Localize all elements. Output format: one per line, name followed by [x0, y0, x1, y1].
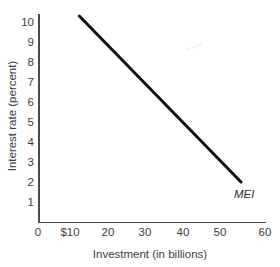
- y-tick-label: 1: [12, 197, 34, 209]
- x-tick-label: 40: [163, 227, 203, 239]
- scan-artifact: [196, 42, 202, 47]
- x-tick-label: 20: [88, 227, 128, 239]
- x-tick-label: 60: [245, 227, 280, 239]
- investment-demand-chart: 10 9 8 7 6 5 4 3 2 1 0 $10 20 30 40 50 6…: [0, 0, 280, 267]
- x-tick-label: 50: [200, 227, 240, 239]
- y-axis-title: Interest rate (percent): [6, 41, 18, 191]
- mei-curve-label: MEI: [234, 188, 254, 200]
- y-axis-line: [38, 14, 40, 223]
- x-axis-line: [38, 222, 266, 224]
- x-tick-label: $10: [50, 227, 90, 239]
- y-tick-label: 10: [12, 17, 34, 29]
- x-axis-title: Investment (in billions): [40, 248, 260, 260]
- x-tick-label: 30: [125, 227, 165, 239]
